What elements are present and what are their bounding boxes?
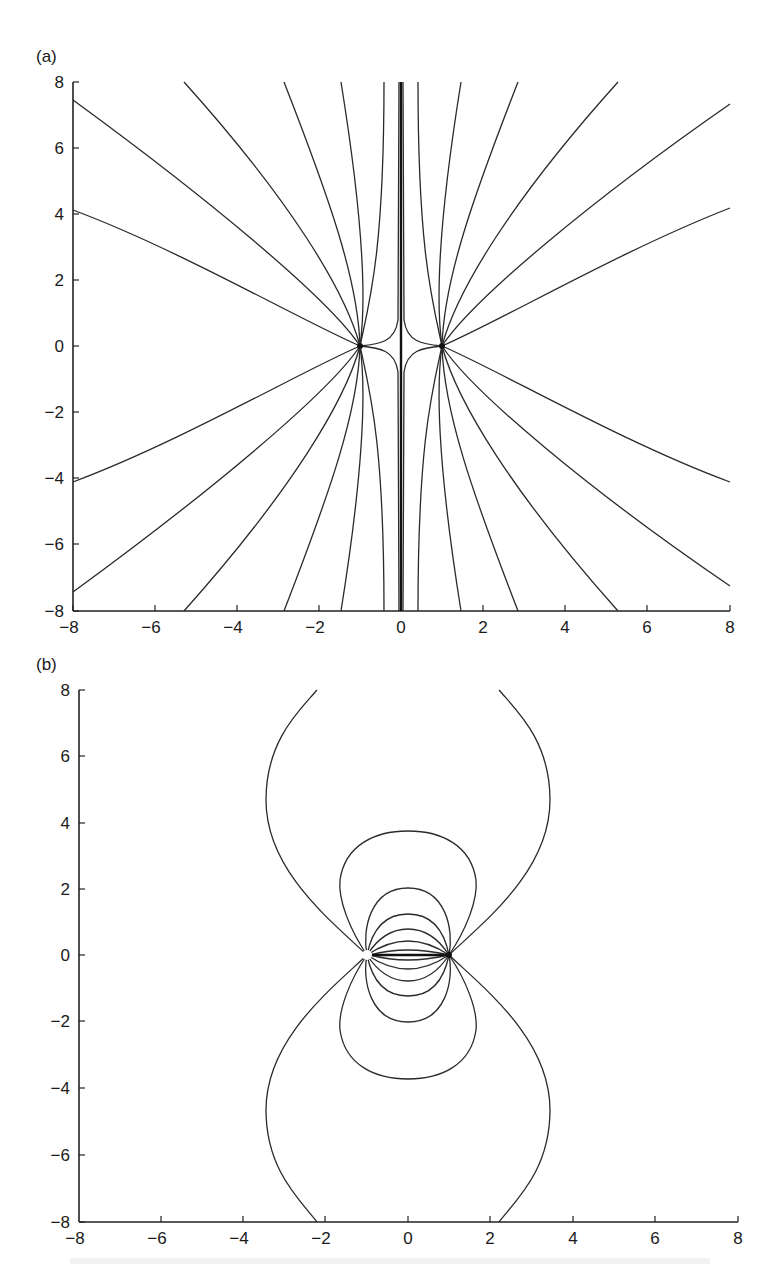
chart-b-y-tick-labels: 8 6 4 2 0 −2 −4 −6 −8 [51, 681, 70, 1232]
svg-text:4: 4 [560, 618, 569, 637]
svg-text:−2: −2 [45, 403, 64, 422]
svg-text:6: 6 [642, 618, 651, 637]
chart-b: 8 6 4 2 0 −2 −4 −6 −8 −8 −6 −4 −2 0 2 4 … [0, 650, 781, 1270]
svg-text:2: 2 [61, 880, 70, 899]
svg-text:−4: −4 [229, 1229, 248, 1248]
chart-a-field-lines [73, 82, 730, 611]
svg-text:6: 6 [55, 139, 64, 158]
chart-b-axes: 8 6 4 2 0 −2 −4 −6 −8 −8 −6 −4 −2 0 2 4 … [51, 681, 743, 1248]
svg-text:2: 2 [485, 1229, 494, 1248]
chart-a-y-tick-labels: 8 6 4 2 0 −2 −4 −6 −8 [45, 73, 64, 621]
svg-text:4: 4 [61, 814, 70, 833]
svg-text:8: 8 [61, 681, 70, 700]
svg-text:−4: −4 [223, 618, 242, 637]
source-point-left [357, 343, 363, 349]
svg-text:0: 0 [396, 618, 405, 637]
svg-text:4: 4 [568, 1229, 577, 1248]
svg-text:6: 6 [650, 1229, 659, 1248]
svg-text:−6: −6 [141, 618, 160, 637]
svg-text:−6: −6 [147, 1229, 166, 1248]
chart-a: 8 6 4 2 0 −2 −4 −6 −8 −8 −6 −4 −2 0 2 4 … [0, 0, 781, 640]
figure-caption-faint [70, 1258, 710, 1264]
svg-text:2: 2 [55, 271, 64, 290]
svg-text:8: 8 [55, 73, 64, 92]
svg-text:−6: −6 [45, 535, 64, 554]
svg-text:−6: −6 [51, 1146, 70, 1165]
svg-text:0: 0 [61, 946, 70, 965]
svg-text:8: 8 [725, 618, 734, 637]
svg-text:−2: −2 [305, 618, 324, 637]
source-point-filled [446, 952, 452, 958]
svg-text:−4: −4 [51, 1079, 70, 1098]
svg-text:6: 6 [61, 747, 70, 766]
svg-text:0: 0 [55, 337, 64, 356]
chart-b-field-lines [266, 690, 550, 1222]
svg-text:−4: −4 [45, 469, 64, 488]
sink-point-open [362, 950, 372, 960]
svg-text:−2: −2 [51, 1012, 70, 1031]
chart-a-x-tick-labels: −8 −6 −4 −2 0 2 4 6 8 [59, 618, 734, 637]
svg-text:8: 8 [733, 1229, 742, 1248]
svg-text:−8: −8 [59, 618, 78, 637]
svg-text:0: 0 [403, 1229, 412, 1248]
svg-text:−2: −2 [311, 1229, 330, 1248]
svg-text:−8: −8 [65, 1229, 84, 1248]
svg-text:4: 4 [55, 205, 64, 224]
chart-b-x-tick-labels: −8 −6 −4 −2 0 2 4 6 8 [65, 1229, 742, 1248]
source-point-right [439, 343, 445, 349]
svg-text:2: 2 [478, 618, 487, 637]
